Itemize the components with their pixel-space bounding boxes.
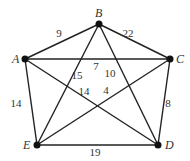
weighted-graph-diagram: 9227151014414819ABCDE bbox=[0, 0, 190, 161]
edge-C-E bbox=[37, 59, 170, 145]
edge-weight-B-D: 10 bbox=[105, 67, 117, 79]
edge-weight-A-C: 7 bbox=[93, 60, 99, 72]
edge-B-C bbox=[99, 24, 170, 59]
node-label-A: A bbox=[11, 52, 20, 66]
edge-A-D bbox=[25, 59, 158, 145]
edge-weight-A-E: 14 bbox=[11, 97, 23, 109]
edge-weight-A-D: 14 bbox=[79, 85, 91, 97]
node-label-B: B bbox=[95, 6, 103, 20]
edge-weight-C-D: 8 bbox=[165, 97, 171, 109]
edge-A-B bbox=[25, 24, 99, 59]
node-B bbox=[96, 21, 103, 28]
edge-weight-B-C: 22 bbox=[123, 27, 134, 39]
edge-weight-A-B: 9 bbox=[56, 27, 62, 39]
edge-weight-C-E: 4 bbox=[103, 84, 109, 96]
node-E bbox=[34, 142, 41, 149]
node-label-D: D bbox=[164, 138, 174, 152]
edge-weight-E-D: 19 bbox=[90, 146, 102, 158]
node-D bbox=[155, 142, 162, 149]
edge-B-E bbox=[37, 24, 99, 145]
node-label-E: E bbox=[22, 138, 31, 152]
node-A bbox=[22, 56, 29, 63]
graph-canvas: 9227151014414819ABCDE bbox=[0, 0, 190, 161]
node-C bbox=[167, 56, 174, 63]
edge-A-E bbox=[25, 59, 37, 145]
edge-weight-B-E: 15 bbox=[72, 69, 84, 81]
node-label-C: C bbox=[176, 52, 185, 66]
